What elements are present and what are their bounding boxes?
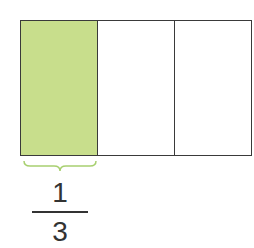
fraction-numerator: 1 xyxy=(30,178,90,208)
bar-part-empty xyxy=(98,21,175,155)
fraction-label: 1 3 xyxy=(30,178,90,247)
bar-part-empty xyxy=(175,21,251,155)
fraction-bar xyxy=(20,20,252,156)
bar-part-shaded xyxy=(21,21,98,155)
fraction-denominator: 3 xyxy=(30,217,90,247)
curly-brace-icon xyxy=(22,159,98,173)
fraction-line xyxy=(32,211,88,213)
